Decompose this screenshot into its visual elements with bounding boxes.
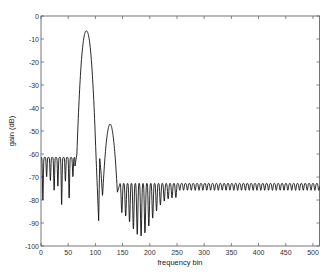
y-tick-label: -60 (29, 151, 39, 158)
y-tick-label: -100 (25, 243, 39, 250)
x-tick-label: 500 (307, 249, 319, 256)
y-axis-label: gain (dB) (7, 115, 16, 146)
y-tick-label: -50 (29, 128, 39, 135)
x-tick-label: 250 (171, 249, 183, 256)
y-tick-label: -70 (29, 174, 39, 181)
y-tick-label: -90 (29, 220, 39, 227)
gain-chart: 050100150200250300350400450500 0-10-20-3… (0, 0, 333, 280)
x-tick-label: 400 (253, 249, 265, 256)
x-tick-label: 50 (64, 249, 72, 256)
x-tick-label: 150 (117, 249, 129, 256)
y-tick-label: -40 (29, 105, 39, 112)
x-tick-label: 0 (39, 249, 43, 256)
x-tick-label: 200 (144, 249, 156, 256)
y-tick-label: -80 (29, 197, 39, 204)
y-tick-label: -10 (29, 36, 39, 43)
plot-frame (41, 16, 320, 246)
x-tick-label: 300 (198, 249, 210, 256)
x-tick-label: 450 (280, 249, 292, 256)
y-tick-label: -30 (29, 82, 39, 89)
y-tick-label: -20 (29, 59, 39, 66)
x-axis-label: frequency bin (157, 258, 202, 267)
x-tick-label: 100 (90, 249, 102, 256)
x-tick-label: 350 (226, 249, 238, 256)
plot-area: 050100150200250300350400450500 0-10-20-3… (25, 13, 320, 257)
y-tick-label: 0 (35, 13, 39, 20)
